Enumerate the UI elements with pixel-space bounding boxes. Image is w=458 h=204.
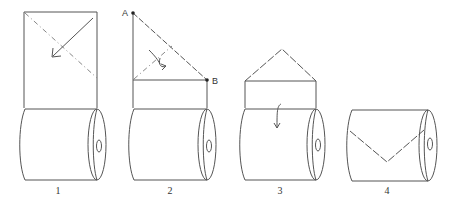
roll-2 <box>129 109 216 180</box>
roll-core-icon <box>207 140 212 152</box>
down-arrow-icon <box>274 104 281 128</box>
v-fold-line <box>350 130 424 162</box>
roll-3 <box>240 109 325 180</box>
step-3-panel: 3 <box>240 49 325 196</box>
fold-line <box>134 46 172 79</box>
point-a-label: A <box>122 8 128 18</box>
step-4-panel: 4 <box>347 110 437 196</box>
point-b-marker <box>205 78 209 82</box>
fold-arrow-icon <box>52 18 93 57</box>
step-1-panel: 1 <box>20 12 106 196</box>
point-b-label: B <box>212 76 218 86</box>
roll-core-icon <box>428 138 433 150</box>
roll-core-icon <box>97 140 102 152</box>
fold-line <box>25 13 97 78</box>
step-number: 3 <box>278 185 283 196</box>
roll-1 <box>20 109 106 180</box>
step-2-panel: A B 2 <box>122 8 218 196</box>
folding-diagram: 1 A B 2 <box>0 0 458 204</box>
roll-4 <box>347 110 437 181</box>
step-number: 4 <box>385 185 390 196</box>
roll-core-icon <box>316 139 321 151</box>
step-number: 2 <box>168 185 173 196</box>
step-number: 1 <box>56 185 61 196</box>
sheet-rectangle <box>24 12 97 108</box>
point-a-marker <box>131 11 135 15</box>
